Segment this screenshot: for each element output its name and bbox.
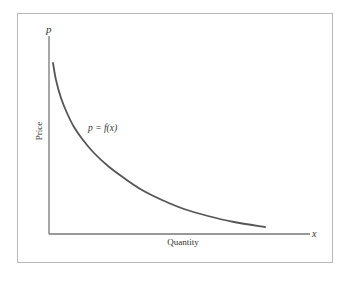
y-axis-symbol: p <box>45 23 52 35</box>
y-axis-label: Price <box>34 122 44 141</box>
x-axis-symbol: x <box>311 228 317 239</box>
curve-label: p = f(x) <box>87 123 117 134</box>
x-axis-label: Quantity <box>167 237 199 247</box>
demand-chart: p x Quantity Price p = f(x) <box>0 0 348 281</box>
demand-curve <box>53 63 265 227</box>
